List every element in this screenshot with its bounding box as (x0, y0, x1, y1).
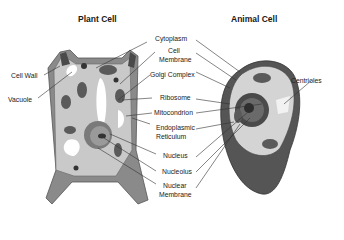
label-er-1: Endoplasmic (156, 124, 195, 132)
label-vacuole: Vacuole (8, 96, 32, 104)
label-centrioles: Centrioles (291, 77, 322, 85)
label-nuclear-membrane-1: Nuclear (163, 182, 186, 190)
label-cell-wall: Cell Wall (11, 72, 38, 80)
label-nuclear-membrane-2: Membrane (159, 191, 192, 199)
label-nucleolus: Nucleolus (162, 168, 192, 176)
animal-cell (221, 61, 300, 194)
label-cytoplasm: Cytoplasm (155, 35, 187, 43)
label-cell-membrane-2: Membrane (159, 56, 192, 64)
label-nucleus: Nucleus (163, 152, 188, 160)
label-er-2: Reticulum (156, 133, 186, 141)
label-mitochondrion: Mitocondrion (154, 109, 193, 117)
plant-cell (46, 50, 148, 204)
label-ribosome: Ribosome (160, 94, 191, 102)
label-cell-membrane-1: Cell (168, 47, 180, 55)
label-golgi: Golgi Complex (150, 71, 195, 79)
